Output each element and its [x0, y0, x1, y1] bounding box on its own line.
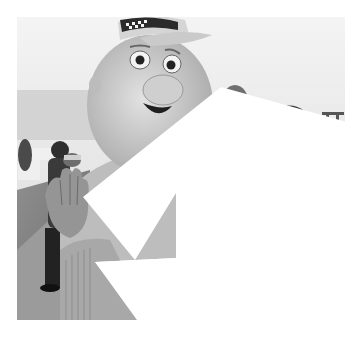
- photo-canvas: Grayscale photograph of a person in a la…: [0, 0, 347, 338]
- photo: [0, 0, 347, 338]
- photo-content: [17, 16, 347, 338]
